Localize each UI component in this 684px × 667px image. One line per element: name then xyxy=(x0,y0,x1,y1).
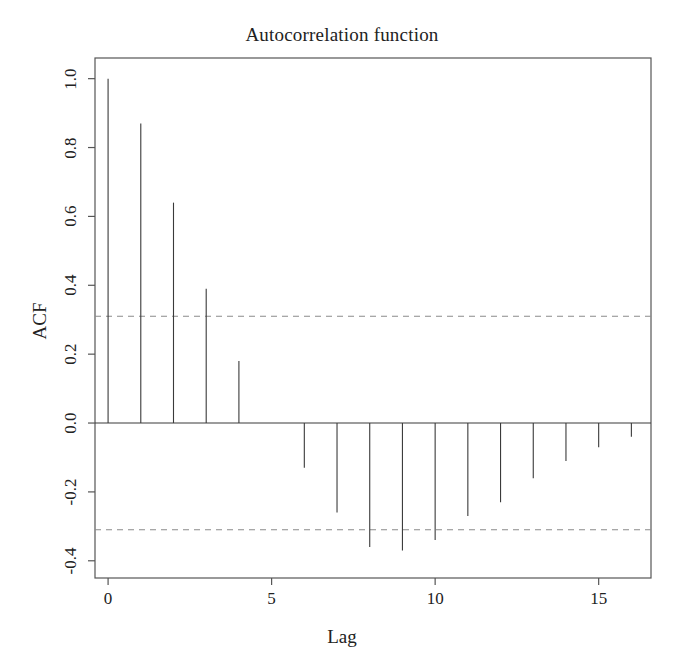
y-tick-label: 0.2 xyxy=(61,331,81,377)
x-tick-label: 5 xyxy=(252,589,292,609)
x-tick-label: 10 xyxy=(415,589,455,609)
y-tick-label: 0.6 xyxy=(61,193,81,239)
x-tick-label: 15 xyxy=(579,589,619,609)
y-tick-label: 0.0 xyxy=(61,400,81,446)
x-tick-label: 0 xyxy=(88,589,128,609)
y-tick-label: 0.4 xyxy=(61,262,81,308)
y-tick-label: -0.2 xyxy=(61,469,81,515)
axis-ticks xyxy=(88,79,599,585)
acf-plot-figure: Autocorrelation function ACF Lag 1.00.80… xyxy=(0,0,684,667)
y-tick-label: 0.8 xyxy=(61,125,81,171)
plot-frame xyxy=(95,58,651,578)
acf-spikes xyxy=(108,79,631,551)
y-tick-label: -0.4 xyxy=(61,538,81,584)
y-tick-label: 1.0 xyxy=(61,56,81,102)
plot-box-border xyxy=(95,58,651,578)
plot-canvas xyxy=(0,0,684,667)
